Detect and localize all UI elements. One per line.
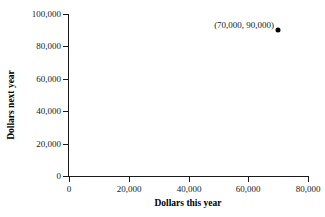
y-axis-tick-label: 80,000 [36, 41, 61, 51]
y-axis-tick-label: 100,000 [32, 9, 61, 19]
scatter-plot-figure: 100,000 80,000 60,000 40,000 20,000 0 0 … [0, 0, 325, 217]
data-point-marker [276, 28, 281, 33]
y-axis-tick-label: 20,000 [36, 139, 61, 149]
x-axis-tick [308, 177, 309, 182]
y-axis-tick-label: 60,000 [36, 74, 61, 84]
y-axis-tick-label: 40,000 [36, 106, 61, 116]
y-axis-tick [63, 176, 68, 177]
y-axis-tick-label: 0 [57, 171, 62, 181]
data-point-annotation: (70,000, 90,000) [214, 20, 274, 30]
x-axis-tick-label: 0 [67, 184, 72, 194]
y-axis-tick [63, 144, 68, 145]
y-axis-line [68, 14, 69, 177]
x-axis-tick [189, 177, 190, 182]
y-axis-tick [63, 79, 68, 80]
x-axis-tick-label: 60,000 [236, 184, 261, 194]
x-axis-tick [248, 177, 249, 182]
x-axis-tick [69, 177, 70, 182]
y-axis-title: Dollars next year [6, 70, 16, 140]
y-axis-tick [63, 14, 68, 15]
y-axis-tick [63, 46, 68, 47]
x-axis-title: Dollars this year [154, 198, 221, 208]
x-axis-tick-label: 80,000 [296, 184, 321, 194]
x-axis-tick-label: 20,000 [117, 184, 142, 194]
y-axis-tick [63, 111, 68, 112]
x-axis-tick-label: 40,000 [177, 184, 202, 194]
x-axis-tick [129, 177, 130, 182]
